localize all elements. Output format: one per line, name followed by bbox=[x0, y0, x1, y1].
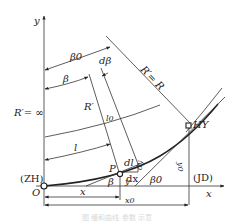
label-origin: O bbox=[32, 187, 40, 198]
label-l: l bbox=[74, 142, 77, 153]
arc-l bbox=[45, 144, 110, 160]
label-r-infinite: R′= ∞ bbox=[13, 107, 44, 118]
point-hy bbox=[186, 123, 191, 128]
label-jd: (JD) bbox=[193, 172, 213, 183]
label-dl: dl bbox=[124, 157, 134, 168]
label-beta-p: β bbox=[107, 176, 114, 187]
label-beta0-bottom: β0 bbox=[149, 174, 163, 185]
label-beta: β bbox=[62, 73, 69, 84]
label-r-prime: R′ bbox=[83, 101, 95, 112]
label-p: P bbox=[108, 163, 116, 174]
arc-l0 bbox=[45, 105, 160, 137]
point-p bbox=[117, 171, 122, 176]
label-beta0-top: β0 bbox=[69, 51, 83, 62]
caption: 图 缓和曲线 参数 示意 bbox=[82, 213, 152, 222]
label-l0: l0 bbox=[106, 114, 114, 123]
label-y: y bbox=[124, 177, 130, 186]
label-dy: dy bbox=[135, 160, 144, 170]
x-axis-label: x bbox=[206, 188, 212, 199]
label-r-equal: R′= R bbox=[138, 63, 167, 92]
label-dbeta: dβ bbox=[99, 55, 111, 66]
label-zh: (ZH) bbox=[20, 173, 44, 184]
radius-r-prime bbox=[89, 74, 119, 172]
label-hy: HY bbox=[192, 119, 210, 130]
spiral-diagram: y x β0 β dβ R′= R R′ R′= ∞ l0 l P dl dx … bbox=[0, 0, 234, 224]
label-x: x bbox=[80, 186, 86, 197]
label-x0: x0 bbox=[125, 196, 135, 205]
label-y0: y0 bbox=[176, 161, 185, 172]
y-axis-label: y bbox=[33, 15, 40, 26]
